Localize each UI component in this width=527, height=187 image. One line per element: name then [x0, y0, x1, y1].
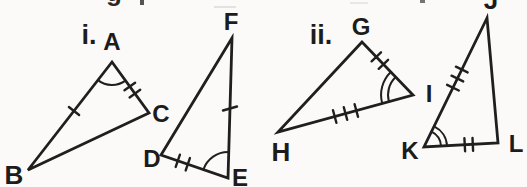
vertex-label-G: G: [352, 13, 371, 40]
vertex-label-C: C: [152, 100, 169, 127]
vertex-label-H: H: [272, 137, 291, 167]
angle-arc-at-E: [203, 152, 228, 170]
vertex-label-A: A: [103, 28, 120, 55]
triangle-def-outline: [161, 38, 232, 178]
scan-speck: [140, 0, 144, 5]
scan-speck: [420, 0, 425, 3]
vertex-label-F: F: [224, 8, 239, 35]
vertex-label-B: B: [5, 160, 24, 187]
item-ii-marker: ii.: [310, 20, 333, 50]
scan-smudge: [350, 2, 368, 4]
tick-marks-side-HI: [333, 104, 358, 123]
vertex-label-I: I: [426, 80, 433, 107]
vertex-label-D: D: [143, 145, 160, 172]
item-i-marker: i.: [81, 20, 96, 50]
triangle-jkl-group: J K L: [401, 0, 523, 164]
vertex-label-E: E: [232, 164, 248, 187]
triangle-def-group: F D E: [143, 8, 248, 187]
vertex-label-K: K: [401, 137, 419, 164]
triangle-abc-outline: [28, 62, 149, 170]
cropped-top-text-fragments: g: [106, 0, 425, 8]
vertex-label-L: L: [509, 130, 524, 157]
scanned-geometry-figure: g i. A B C: [0, 0, 527, 187]
cropped-letter-g-fragment: g: [106, 0, 122, 7]
angle-arc-at-A: [98, 80, 126, 85]
triangle-congruence-diagram: g i. A B C: [0, 0, 527, 187]
vertex-label-J-clipped: J: [484, 0, 498, 15]
triangle-ghi-outline: [278, 42, 413, 132]
tick-marks-side-JK: [447, 67, 468, 91]
